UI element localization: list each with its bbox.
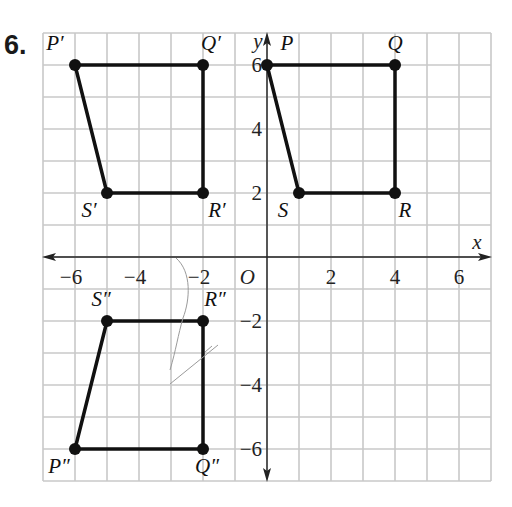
- origin-label: O: [240, 265, 255, 289]
- x-tick-label: −2: [188, 265, 210, 289]
- coordinate-plane-diagram: 6. −6−4−2246642−2−4−6OxyPQRSP′Q′R′S′P″Q″…: [0, 0, 512, 507]
- vertex-label: S″: [91, 287, 111, 311]
- x-tick-label: −6: [60, 265, 82, 289]
- vertex-point: [197, 187, 209, 199]
- vertex-point: [197, 315, 209, 327]
- x-tick-label: 6: [454, 265, 465, 289]
- vertex-point: [293, 187, 305, 199]
- vertex-point: [197, 59, 209, 71]
- vertex-point: [261, 59, 273, 71]
- y-tick-label: 2: [252, 181, 263, 205]
- vertex-label: P: [280, 31, 294, 55]
- vertex-label: P″: [47, 454, 70, 478]
- y-tick-label: 4: [252, 117, 263, 141]
- vertex-label: R′: [207, 198, 226, 222]
- vertex-label: S: [278, 198, 289, 222]
- x-tick-label: 4: [390, 265, 401, 289]
- y-tick-label: −6: [240, 437, 262, 461]
- vertex-label: Q′: [201, 31, 221, 55]
- y-tick-label: 6: [252, 53, 263, 77]
- vertex-point: [101, 315, 113, 327]
- vertex-point: [389, 59, 401, 71]
- vertex-label: Q: [387, 31, 402, 55]
- vertex-label: Q″: [195, 454, 219, 478]
- axes: [42, 32, 492, 482]
- x-tick-label: 2: [326, 265, 337, 289]
- vertex-point: [69, 59, 81, 71]
- y-axis-label: y: [251, 29, 263, 53]
- coordinate-plane: −6−4−2246642−2−4−6OxyPQRSP′Q′R′S′P″Q″R″S…: [0, 0, 512, 507]
- vertex-point: [69, 443, 81, 455]
- y-tick-label: −4: [240, 373, 263, 397]
- x-axis-label: x: [471, 230, 482, 254]
- x-tick-label: −4: [124, 265, 147, 289]
- vertex-point: [101, 187, 113, 199]
- vertex-label: R″: [203, 287, 226, 311]
- vertex-label: R: [398, 198, 412, 222]
- vertex-label: S′: [81, 198, 97, 222]
- vertex-label: P′: [45, 31, 64, 55]
- y-tick-label: −2: [240, 309, 262, 333]
